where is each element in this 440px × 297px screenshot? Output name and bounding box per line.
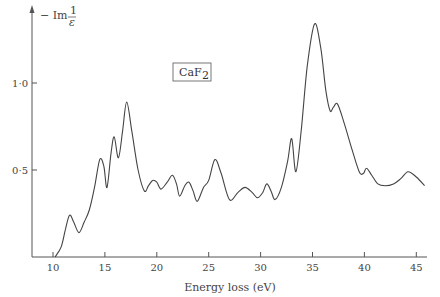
x-tick-label: 30 [254, 262, 267, 273]
eels-curve [55, 23, 425, 257]
x-ticks: 1015202530354045 [47, 252, 423, 273]
x-axis-label: Energy loss (eV) [184, 281, 276, 294]
x-tick-label: 35 [306, 262, 319, 273]
y-tick-label: 0·5 [12, 165, 28, 176]
y-axis-label: − Im 1 ε [40, 4, 77, 29]
x-tick-label: 25 [202, 262, 215, 273]
x-tick-label: 10 [47, 262, 60, 273]
svg-text:ε: ε [69, 16, 75, 29]
y-tick-label: 1·0 [12, 78, 28, 89]
x-tick-label: 40 [358, 262, 371, 273]
svg-text:CaF: CaF [179, 66, 202, 79]
y-axis-arrow-icon [30, 5, 35, 13]
chart: 1015202530354045 0·51·0 − Im 1 ε Energy … [0, 0, 440, 297]
x-tick-label: 45 [410, 262, 423, 273]
svg-text:2: 2 [202, 69, 209, 82]
x-tick-label: 15 [99, 262, 112, 273]
svg-text:− Im: − Im [40, 9, 68, 22]
sample-label-box: CaF 2 [173, 63, 211, 82]
x-tick-label: 20 [150, 262, 163, 273]
y-ticks: 0·51·0 [12, 78, 37, 176]
